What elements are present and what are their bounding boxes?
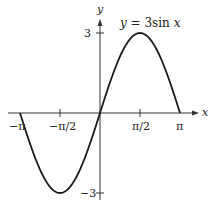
x-tick-label-neg-half-pi: −π/2 (49, 121, 76, 132)
x-tick-label-neg-pi: −π (9, 121, 25, 132)
x-axis-arrow-icon (192, 111, 199, 116)
curve-label: y = 3sin x (120, 17, 180, 29)
x-tick-label-half-pi: π/2 (132, 121, 150, 132)
y-tick-label-3: 3 (84, 28, 91, 39)
x-axis-label: x (202, 107, 208, 118)
y-axis-label: y (97, 4, 103, 15)
x-tick-label-pi: π (176, 121, 183, 132)
y-axis-arrow-icon (98, 19, 103, 26)
plot-canvas (0, 0, 212, 207)
y-tick-label-neg3: −3 (80, 188, 96, 199)
sine-plot: y x y = 3sin x 3 −3 −π −π/2 π/2 π (0, 0, 212, 207)
